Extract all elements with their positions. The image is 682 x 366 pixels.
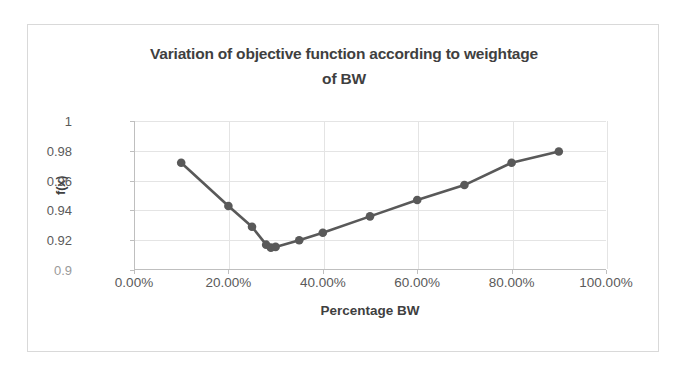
x-axis-tick-mark: [512, 270, 513, 274]
y-axis-tick-label: 0.92: [12, 233, 72, 248]
gridline-vertical: [607, 121, 608, 269]
plot-wrapper: f(x) Percentage BW 0.90.920.940.960.9810…: [28, 25, 660, 353]
x-axis-tick-label: 100.00%: [561, 275, 651, 290]
series-polyline: [181, 152, 559, 248]
series-line-chart: [134, 121, 606, 270]
x-axis-tick-mark: [606, 270, 607, 274]
x-axis-tick-label: 0.00%: [89, 275, 179, 290]
data-point-marker: [248, 222, 257, 231]
data-point-marker: [319, 228, 328, 237]
data-point-marker: [224, 202, 233, 211]
y-axis-tick-mark: [130, 181, 134, 182]
x-axis-tick-label: 20.00%: [183, 275, 273, 290]
data-point-marker: [177, 158, 186, 167]
x-axis-tick-label: 60.00%: [372, 275, 462, 290]
y-axis-tick-label: 0.9: [12, 263, 72, 278]
data-point-marker: [271, 243, 280, 252]
data-point-marker: [413, 196, 422, 205]
y-axis-tick-label: 0.98: [12, 143, 72, 158]
y-axis-tick-label: 0.94: [12, 203, 72, 218]
data-point-marker: [507, 158, 516, 167]
x-axis-tick-label: 40.00%: [278, 275, 368, 290]
y-axis-tick-label: 0.96: [12, 173, 72, 188]
y-axis-tick-mark: [130, 210, 134, 211]
y-axis-tick-mark: [130, 151, 134, 152]
data-point-marker: [366, 212, 375, 221]
data-point-marker: [460, 181, 469, 190]
y-axis-tick-mark: [130, 121, 134, 122]
x-axis-tick-label: 80.00%: [467, 275, 557, 290]
x-axis-tick-mark: [323, 270, 324, 274]
x-axis-tick-mark: [228, 270, 229, 274]
chart-figure-frame: Variation of objective function accordin…: [27, 24, 659, 352]
x-axis-tick-mark: [417, 270, 418, 274]
data-point-marker: [295, 236, 304, 245]
data-point-marker: [555, 147, 564, 156]
x-axis-title: Percentage BW: [134, 303, 606, 318]
x-axis-tick-mark: [134, 270, 135, 274]
series-markers: [177, 147, 563, 252]
y-axis-tick-label: 1: [12, 114, 72, 129]
y-axis-tick-mark: [130, 240, 134, 241]
